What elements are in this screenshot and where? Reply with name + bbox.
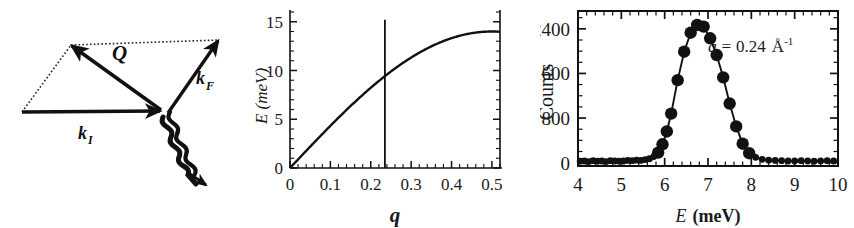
spectrum-x-tick-label: 7 — [703, 174, 713, 195]
annotation-value: 0.24 — [736, 37, 766, 56]
spectrum-data-point — [671, 74, 683, 86]
dispersion-y-axis-label: E (meV) — [252, 68, 271, 126]
spectrum-data-point — [678, 46, 690, 58]
dotted-closure-top — [71, 40, 219, 45]
dispersion-x-tick-labels: 00.10.20.30.40.5 — [286, 175, 503, 194]
dispersion-x-tick-label: 0.5 — [481, 175, 502, 194]
spectrum-annotation: q=0.24Å-1 — [708, 35, 793, 56]
spectrum-data-point — [661, 125, 673, 137]
q-vector-label: Q — [112, 41, 127, 65]
dispersion-plot-svg: 051015 00.10.20.30.40.5 E (meV) q — [250, 0, 540, 228]
spectrum-data-point — [785, 158, 792, 165]
dispersion-x-tick-label: 0.1 — [320, 175, 341, 194]
spectrum-data-point — [697, 20, 709, 32]
ki-vector-label: k — [78, 123, 87, 143]
dispersion-x-ticks — [290, 161, 500, 168]
ki-vector-arrow — [22, 111, 160, 112]
spectrum-data-point — [791, 158, 798, 165]
spectrum-x-tick-label: 4 — [573, 174, 583, 195]
spectrum-y-tick-label: 2400 — [540, 19, 570, 40]
spectrum-data-point — [730, 120, 742, 132]
spectrum-x-axis-label-unit: (meV) — [693, 206, 741, 227]
panel-dispersion-plot: 051015 00.10.20.30.40.5 E (meV) q — [250, 0, 540, 228]
dispersion-y-tick-label: 5 — [275, 110, 284, 129]
kf-vector-arrow — [168, 41, 218, 113]
dispersion-y-ticks — [290, 12, 500, 168]
annotation-exponent: -1 — [784, 35, 793, 47]
spectrum-data-point — [830, 158, 837, 165]
dispersion-y-tick-label: 0 — [275, 159, 284, 178]
spectrum-x-axis-label: E(meV) — [675, 206, 741, 227]
spectrum-x-tick-labels: 45678910 — [573, 174, 847, 195]
spectrum-data-point — [778, 157, 785, 164]
spectrum-data-point — [765, 157, 772, 164]
spectrum-data-point — [817, 158, 824, 165]
spectrum-data-point — [665, 107, 677, 119]
dispersion-x-tick-label: 0.3 — [401, 175, 422, 194]
spectrum-data-point — [772, 157, 779, 164]
kf-vector-label: k — [196, 68, 205, 88]
spectrum-data-point — [824, 157, 831, 164]
figure-root: Q k I k F 051015 00.10.20.30.40.5 — [0, 0, 854, 228]
spectrum-data-points — [577, 19, 837, 165]
kf-vector-subscript: F — [205, 79, 214, 93]
ki-vector-subscript: I — [87, 133, 94, 147]
spectrum-y-tick-label: 0 — [561, 153, 571, 174]
spectrum-x-tick-label: 6 — [660, 174, 670, 195]
panel-energy-scan: 080016002400 45678910 q=0.24Å-1 Counts E… — [540, 0, 854, 228]
dispersion-x-tick-label: 0.4 — [441, 175, 463, 194]
spectrum-data-point — [752, 154, 759, 161]
scattering-diagram-svg: Q k I k F — [0, 0, 250, 228]
annotation-equals: = — [722, 37, 732, 56]
spectrum-x-axis-label-E: E — [675, 206, 687, 226]
panel-scattering-diagram: Q k I k F — [0, 0, 250, 228]
spectrum-x-tick-label: 5 — [617, 174, 627, 195]
dispersion-x-axis-label: q — [390, 203, 401, 227]
spectrum-plot-svg: 080016002400 45678910 q=0.24Å-1 Counts E… — [540, 0, 854, 228]
svg-text:q=0.24Å-1: q=0.24Å-1 — [708, 35, 793, 56]
spectrum-y-axis-label: Counts — [540, 63, 557, 120]
dispersion-x-tick-label: 0.2 — [360, 175, 381, 194]
spectrum-x-tick-label: 8 — [747, 174, 757, 195]
dotted-closure-left — [22, 45, 71, 112]
spectrum-x-tick-label: 10 — [829, 174, 848, 195]
dispersion-y-tick-label: 15 — [266, 13, 283, 32]
spectrum-data-point — [717, 71, 729, 83]
spectrum-data-point — [723, 97, 735, 109]
dispersion-x-tick-label: 0 — [286, 175, 295, 194]
spectrum-data-point — [798, 157, 805, 164]
annotation-unit: Å — [772, 37, 785, 56]
dispersion-curve — [290, 32, 500, 169]
spectrum-data-point — [804, 158, 811, 165]
annotation-symbol: q — [708, 37, 717, 56]
spectrum-fit-line — [580, 25, 834, 162]
spectrum-data-point — [656, 138, 668, 150]
spectrum-data-point — [759, 156, 766, 163]
spectrum-data-point — [811, 158, 818, 165]
spectrum-x-tick-label: 9 — [790, 174, 800, 195]
